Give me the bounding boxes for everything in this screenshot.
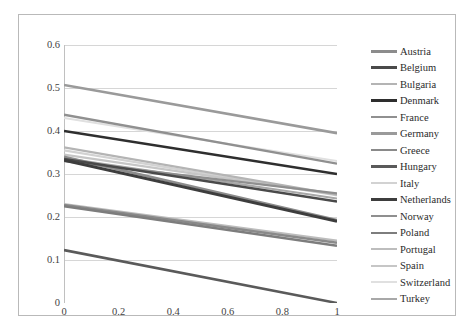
legend-item-hungary[interactable]: Hungary: [371, 159, 471, 176]
series-line: [64, 85, 337, 133]
y-tick-label: 0.4: [30, 126, 60, 136]
legend-label: France: [400, 112, 429, 123]
legend-swatch-icon: [371, 232, 397, 234]
legend-item-france[interactable]: France: [371, 109, 471, 126]
legend-label: Hungary: [400, 161, 437, 172]
legend-swatch-icon: [371, 298, 397, 300]
legend-label: Turkey: [400, 293, 430, 304]
legend-item-turkey[interactable]: Turkey: [371, 291, 471, 308]
legend-item-portugal[interactable]: Portugal: [371, 241, 471, 258]
x-tick-label: 0.4: [153, 306, 193, 318]
legend-label: Norway: [400, 211, 434, 222]
legend-label: Spain: [400, 260, 424, 271]
legend-item-italy[interactable]: Italy: [371, 175, 471, 192]
series-line: [64, 159, 337, 202]
legend-label: Netherlands: [400, 194, 451, 205]
x-tick-label: 0.6: [208, 306, 248, 318]
x-tick-label: 0.8: [262, 306, 302, 318]
legend-item-bulgaria[interactable]: Bulgaria: [371, 76, 471, 93]
legend-label: Portugal: [400, 244, 436, 255]
x-tick-label: 1: [317, 306, 357, 318]
legend-item-belgium[interactable]: Belgium: [371, 60, 471, 77]
legend-swatch-icon: [371, 132, 397, 135]
chart-legend: AustriaBelgiumBulgariaDenmarkFranceGerma…: [371, 43, 471, 307]
legend-swatch-icon: [371, 66, 397, 69]
legend-swatch-icon: [371, 99, 397, 102]
legend-item-netherlands[interactable]: Netherlands: [371, 192, 471, 209]
legend-swatch-icon: [371, 281, 397, 283]
legend-label: Bulgaria: [400, 79, 436, 90]
legend-label: Belgium: [400, 62, 436, 73]
legend-item-greece[interactable]: Greece: [371, 142, 471, 159]
y-tick-label: 0.3: [30, 169, 60, 179]
legend-swatch-icon: [371, 116, 397, 118]
chart-figure: 00.10.20.30.40.50.6 00.20.40.60.81 Austr…: [0, 0, 473, 330]
legend-swatch-icon: [371, 83, 397, 85]
y-tick-label: 0.5: [30, 83, 60, 93]
legend-label: Poland: [400, 227, 429, 238]
legend-label: Greece: [400, 145, 430, 156]
legend-item-norway[interactable]: Norway: [371, 208, 471, 225]
y-tick-label: 0.2: [30, 212, 60, 222]
legend-swatch-icon: [371, 265, 397, 267]
legend-swatch-icon: [371, 198, 397, 201]
legend-label: Germany: [400, 128, 439, 139]
legend-swatch-icon: [371, 149, 397, 151]
y-axis: 00.10.20.30.40.50.6: [23, 45, 60, 303]
legend-label: Switzerland: [400, 277, 450, 288]
legend-label: Italy: [400, 178, 419, 189]
legend-swatch-icon: [371, 50, 397, 53]
chart-frame: 00.10.20.30.40.50.6 00.20.40.60.81 Austr…: [18, 14, 456, 316]
legend-swatch-icon: [371, 165, 397, 168]
plot-svg: [64, 45, 337, 303]
legend-label: Denmark: [400, 95, 439, 106]
legend-label: Austria: [400, 46, 431, 57]
legend-swatch-icon: [371, 182, 397, 184]
legend-item-germany[interactable]: Germany: [371, 126, 471, 143]
legend-swatch-icon: [371, 215, 397, 217]
x-tick-label: 0: [44, 306, 84, 318]
legend-item-switzerland[interactable]: Switzerland: [371, 274, 471, 291]
x-axis: 00.20.40.60.81: [64, 306, 337, 322]
legend-item-poland[interactable]: Poland: [371, 225, 471, 242]
y-tick-label: 0.1: [30, 255, 60, 265]
legend-item-austria[interactable]: Austria: [371, 43, 471, 60]
legend-item-denmark[interactable]: Denmark: [371, 93, 471, 110]
x-tick-label: 0.2: [99, 306, 139, 318]
plot-area: [64, 45, 337, 303]
y-tick-label: 0.6: [30, 40, 60, 50]
legend-item-spain[interactable]: Spain: [371, 258, 471, 275]
legend-swatch-icon: [371, 248, 397, 250]
series-line: [64, 250, 337, 303]
